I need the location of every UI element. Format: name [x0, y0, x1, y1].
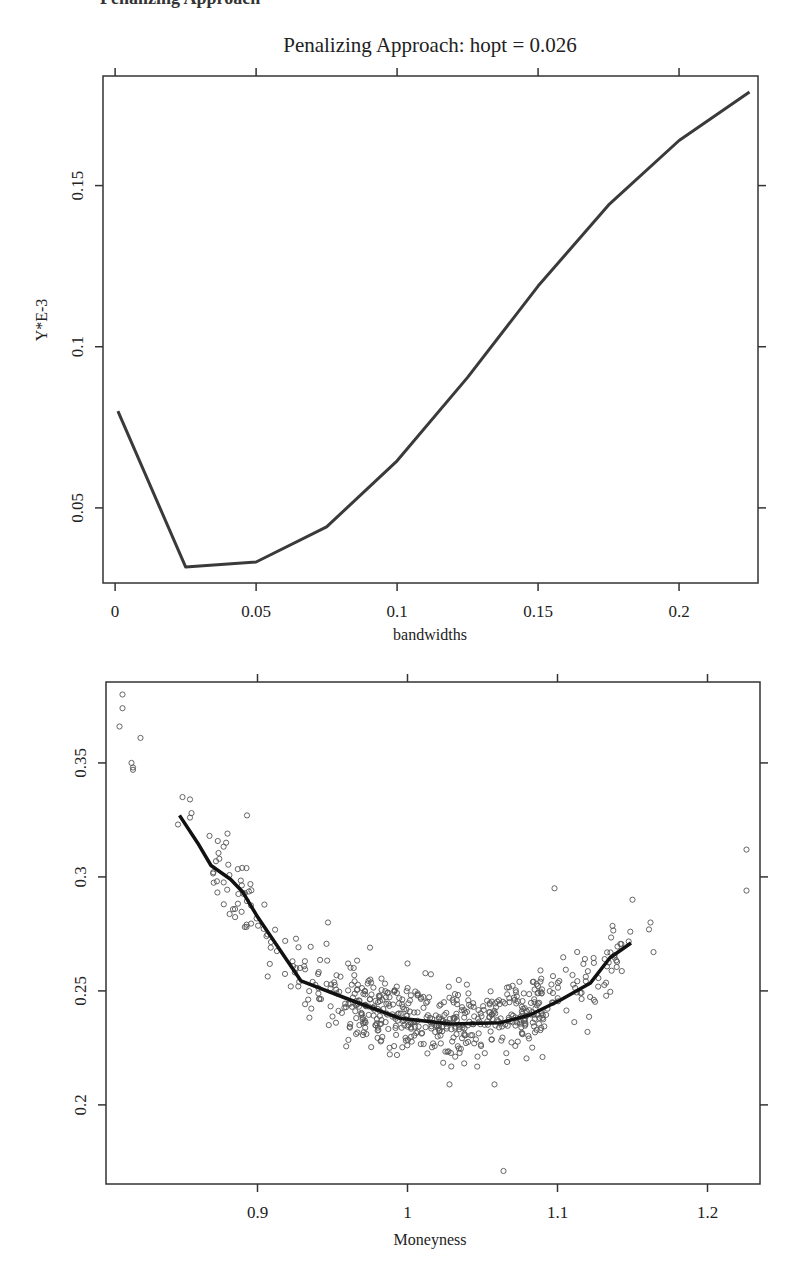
data-point — [324, 941, 329, 946]
data-point — [318, 957, 323, 962]
data-point — [423, 971, 428, 976]
data-point — [346, 988, 351, 993]
data-point — [330, 1014, 335, 1019]
data-point — [575, 949, 580, 954]
data-point — [346, 1037, 351, 1042]
data-point — [355, 958, 360, 963]
data-point — [379, 976, 384, 981]
data-point — [221, 902, 226, 907]
y-tick-label: 0.15 — [68, 171, 87, 201]
x-tick-label: 0.15 — [523, 602, 553, 621]
data-point — [383, 1020, 388, 1025]
data-point — [423, 1025, 428, 1030]
data-point — [262, 902, 267, 907]
outlier-point — [175, 822, 180, 827]
y-tick-label: 0.2 — [71, 1094, 90, 1115]
data-point — [268, 945, 273, 950]
data-point — [475, 1054, 480, 1059]
data-point — [211, 880, 216, 885]
data-point — [344, 1044, 349, 1049]
figure: Penalizing Approach: hopt = 0.026 00.050… — [0, 0, 797, 1270]
bandwidth-penalty-chart: Penalizing Approach: hopt = 0.026 00.050… — [33, 33, 766, 643]
data-point — [309, 1006, 314, 1011]
outlier-point — [120, 706, 125, 711]
data-point — [400, 997, 405, 1002]
x-tick-label: 0.1 — [386, 602, 407, 621]
x-tick-label: 1.1 — [547, 1203, 568, 1222]
outlier-point — [325, 920, 330, 925]
data-point — [366, 1012, 371, 1017]
data-point — [608, 989, 613, 994]
outlier-point — [552, 886, 557, 891]
data-point — [267, 961, 272, 966]
outlier-point — [244, 813, 249, 818]
data-point — [499, 1038, 504, 1043]
data-point — [428, 972, 433, 977]
plot-frame — [106, 682, 760, 1184]
outlier-point — [585, 1029, 590, 1034]
x-axis-label: Moneyness — [394, 1231, 467, 1249]
data-point — [283, 938, 288, 943]
data-point — [482, 1051, 487, 1056]
data-point — [454, 1032, 459, 1037]
y-tick-label: 0.3 — [71, 866, 90, 887]
data-point — [587, 1014, 592, 1019]
y-tick-label: 0.25 — [71, 976, 90, 1006]
outlier-point — [120, 692, 125, 697]
y-tick-label: 0.1 — [68, 336, 87, 357]
data-point — [405, 1043, 410, 1048]
data-point — [524, 1056, 529, 1061]
data-point — [549, 982, 554, 987]
data-point — [239, 909, 244, 914]
data-point — [455, 992, 460, 997]
data-point — [427, 995, 432, 1000]
outlier-point — [501, 1168, 506, 1173]
outlier-point — [187, 815, 192, 820]
data-point — [561, 955, 566, 960]
outlier-point — [117, 724, 122, 729]
data-point — [530, 1045, 535, 1050]
x-axis-label: bandwidths — [393, 626, 467, 643]
data-point — [575, 979, 580, 984]
outlier-point — [651, 950, 656, 955]
data-point — [614, 964, 619, 969]
outlier-point — [180, 795, 185, 800]
outlier-point — [744, 888, 749, 893]
x-tick-label: 0 — [111, 602, 120, 621]
data-point — [386, 1026, 391, 1031]
data-point — [235, 901, 240, 906]
data-point — [462, 1061, 467, 1066]
scatter-points — [117, 692, 749, 1174]
data-point — [303, 1002, 308, 1007]
data-point — [550, 974, 555, 979]
data-point — [517, 979, 522, 984]
data-point — [476, 1031, 481, 1036]
data-point — [296, 945, 301, 950]
data-point — [475, 1064, 480, 1069]
data-point — [513, 1043, 518, 1048]
data-point — [273, 927, 278, 932]
outlier-point — [630, 897, 635, 902]
penalty-curve — [118, 92, 750, 567]
outlier-point — [405, 961, 410, 966]
data-point — [238, 878, 243, 883]
data-point — [464, 982, 469, 987]
data-point — [221, 880, 226, 885]
data-point — [307, 989, 312, 994]
data-point — [437, 1003, 442, 1008]
data-point — [354, 1016, 359, 1021]
data-point — [588, 994, 593, 999]
data-point — [394, 1052, 399, 1057]
data-point — [521, 991, 526, 996]
data-point — [424, 1000, 429, 1005]
data-point — [449, 1064, 454, 1069]
data-point — [303, 967, 308, 972]
data-point — [564, 1008, 569, 1013]
data-point — [404, 989, 409, 994]
data-point — [609, 968, 614, 973]
data-point — [256, 923, 261, 928]
x-tick-label: 0.05 — [241, 602, 271, 621]
data-point — [488, 1029, 493, 1034]
data-point — [382, 981, 387, 986]
data-point — [227, 911, 232, 916]
